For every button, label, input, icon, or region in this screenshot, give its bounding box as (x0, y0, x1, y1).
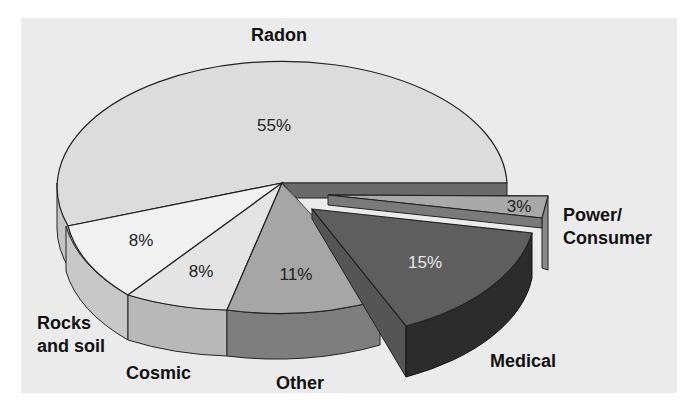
percent-medical: 15% (408, 253, 442, 272)
label-medical: Medical (490, 351, 556, 371)
label-power-line1: Power/ (563, 205, 622, 225)
percent-rocks: 8% (129, 231, 154, 250)
percent-power: 3% (507, 197, 532, 216)
label-other: Other (276, 373, 324, 393)
percent-cosmic: 8% (189, 262, 214, 281)
label-cosmic: Cosmic (126, 363, 191, 383)
label-power-line2: Consumer (563, 228, 652, 248)
label-rocks-line1: Rocks (37, 313, 91, 333)
label-radon: Radon (251, 25, 307, 45)
pie-chart: Radon Rocks and soil Cosmic Other Medica… (0, 0, 693, 415)
percent-other: 11% (280, 265, 313, 284)
label-rocks-line2: and soil (37, 336, 105, 356)
percent-radon: 55% (257, 116, 291, 135)
